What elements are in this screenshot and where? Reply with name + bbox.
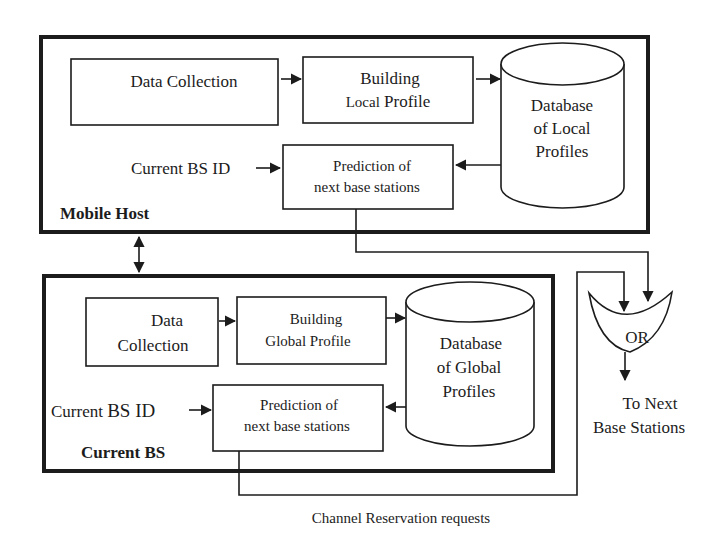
bs-prediction-line2: next base stations	[244, 418, 350, 434]
bs-prediction-line1: Prediction of	[260, 397, 338, 413]
mh-data-collection-box	[71, 59, 278, 125]
mh-building-line2: Local Profile	[346, 92, 431, 111]
mh-building-local: Local	[346, 94, 380, 110]
output-label-line2: Base Stations	[593, 418, 685, 437]
or-gate: OR	[589, 292, 672, 352]
mh-database-cylinder: Database of Local Profiles	[501, 43, 624, 208]
mh-prediction-box	[283, 145, 453, 209]
bs-id-big: BS ID	[107, 400, 155, 421]
output-label-line1: To Next	[623, 394, 678, 413]
current-bs-group: Data Collection Building Global Profile …	[44, 276, 553, 471]
mh-db-line1: Database	[531, 96, 593, 115]
mh-prediction-line1: Prediction of	[333, 158, 411, 174]
bs-db-line1: Database	[440, 334, 502, 353]
or-gate-label: OR	[625, 328, 649, 347]
system-diagram: Data Collection Building Local Profile D…	[0, 0, 724, 560]
bs-data-collection-line1: Data	[151, 311, 184, 330]
bs-db-line2: of Global	[437, 358, 502, 377]
bs-current-bs-id-label: Current BS ID	[51, 400, 155, 421]
mh-building-profile-box	[303, 57, 473, 123]
mobile-host-title: Mobile Host	[60, 204, 150, 223]
diagram-caption: Channel Reservation requests	[312, 510, 490, 526]
bs-db-line3: Profiles	[443, 382, 496, 401]
current-bs-title: Current BS	[81, 443, 165, 462]
mh-prediction-line2: next base stations	[314, 179, 420, 195]
bs-building-profile-box	[237, 297, 386, 364]
mh-data-collection-label: Data Collection	[130, 72, 238, 91]
mobile-host-group: Data Collection Building Local Profile D…	[41, 37, 648, 232]
bs-building-line2: Global Profile	[265, 333, 351, 349]
mh-current-bs-id-label: Current BS ID	[131, 159, 230, 178]
bs-current-prefix: Current	[51, 402, 107, 421]
mh-building-profile: Profile	[380, 92, 431, 111]
bs-data-collection-line2: Collection	[118, 336, 189, 355]
mh-db-line3: Profiles	[536, 142, 589, 161]
bs-database-cylinder: Database of Global Profiles	[406, 282, 534, 446]
mh-building-line1: Building	[360, 69, 420, 88]
bs-building-line1: Building	[290, 311, 343, 327]
bs-data-collection-box	[86, 298, 218, 366]
mh-db-line2: of Local	[533, 119, 590, 138]
